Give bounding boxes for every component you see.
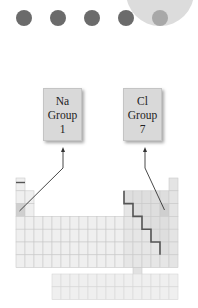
group-number: 1	[44, 122, 81, 136]
element-cell	[142, 242, 151, 255]
f-block-cell	[169, 287, 178, 300]
element-cell	[160, 242, 169, 255]
cl-arrow-head-icon	[143, 147, 147, 152]
element-cell	[97, 216, 106, 229]
element-cell	[79, 229, 88, 242]
element-cell	[133, 204, 142, 217]
f-block-cell	[133, 287, 142, 300]
element-cell	[142, 204, 151, 217]
element-cell	[34, 255, 43, 268]
element-cell	[34, 229, 43, 242]
element-cell	[52, 216, 61, 229]
periodic-table-diagram	[0, 0, 198, 308]
group-label: Group	[44, 108, 81, 122]
element-cell	[169, 191, 178, 204]
element-cell	[97, 255, 106, 268]
element-cell	[25, 204, 34, 217]
cl-label-box: Cl Group 7	[123, 88, 162, 141]
element-cell	[160, 216, 169, 229]
element-cell	[88, 216, 97, 229]
element-cell	[124, 255, 133, 268]
element-cell	[70, 216, 79, 229]
element-cell	[124, 242, 133, 255]
f-block-cell	[160, 274, 169, 287]
f-block-cell	[88, 287, 97, 300]
element-cell	[43, 242, 52, 255]
element-cell	[79, 242, 88, 255]
f-block-cell	[124, 287, 133, 300]
f-block-cell	[142, 274, 151, 287]
element-cell	[151, 229, 160, 242]
f-block-cell	[52, 274, 61, 287]
element-cell	[133, 242, 142, 255]
element-cell	[16, 216, 25, 229]
element-cell	[61, 229, 70, 242]
element-cell	[151, 204, 160, 217]
element-cell	[142, 229, 151, 242]
element-cell	[124, 229, 133, 242]
f-block-cell	[115, 274, 124, 287]
element-cell	[25, 255, 34, 268]
f-block-cell	[151, 287, 160, 300]
element-cell	[169, 242, 178, 255]
element-cell	[34, 216, 43, 229]
element-cell	[88, 229, 97, 242]
na-arrow-head-icon	[61, 147, 65, 152]
element-cell	[133, 255, 142, 268]
element-cell	[70, 255, 79, 268]
element-cell	[133, 229, 142, 242]
element-cell	[142, 216, 151, 229]
element-cell	[115, 229, 124, 242]
element-cell	[16, 229, 25, 242]
element-cell	[79, 255, 88, 268]
element-cell	[79, 216, 88, 229]
element-cell	[106, 242, 115, 255]
f-block-cell	[133, 274, 142, 287]
f-block-cell	[124, 274, 133, 287]
element-cell	[52, 255, 61, 268]
element-cell	[16, 255, 25, 268]
f-block-cell	[79, 287, 88, 300]
element-cell	[25, 242, 34, 255]
element-cell	[106, 255, 115, 268]
element-cell	[25, 229, 34, 242]
element-cell	[52, 229, 61, 242]
f-block-cell	[88, 274, 97, 287]
f-block-cell	[106, 274, 115, 287]
f-block-cell	[160, 287, 169, 300]
f-block-cell	[61, 287, 70, 300]
element-cell	[169, 178, 178, 191]
f-block-cell	[52, 287, 61, 300]
element-cell	[151, 216, 160, 229]
f-block-cell	[79, 274, 88, 287]
element-cell	[160, 255, 169, 268]
element-cell	[169, 255, 178, 268]
f-block-cell	[97, 274, 106, 287]
f-block-cell	[169, 274, 178, 287]
element-cell	[169, 204, 178, 217]
element-cell	[25, 216, 34, 229]
element-cell	[169, 216, 178, 229]
group-number: 7	[124, 122, 161, 136]
element-cell	[88, 255, 97, 268]
element-cell	[16, 242, 25, 255]
element-cell	[43, 255, 52, 268]
f-block-cell	[115, 287, 124, 300]
element-cell	[106, 229, 115, 242]
element-cell	[142, 255, 151, 268]
na-label-box: Na Group 1	[43, 88, 82, 141]
element-cell	[97, 242, 106, 255]
element-cell	[124, 204, 133, 217]
element-symbol: Na	[44, 94, 81, 108]
element-symbol: Cl	[124, 94, 161, 108]
f-block-cell	[97, 287, 106, 300]
element-cell	[97, 229, 106, 242]
element-cell	[169, 229, 178, 242]
f-block-cell	[61, 274, 70, 287]
element-cell	[61, 255, 70, 268]
element-cell	[43, 229, 52, 242]
f-block-cell	[151, 274, 160, 287]
element-cell	[115, 216, 124, 229]
element-cell	[16, 191, 25, 204]
element-cell	[151, 242, 160, 255]
